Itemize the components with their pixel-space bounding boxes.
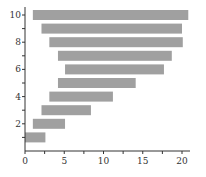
bar-3 [41,105,90,115]
bar-1 [25,132,45,142]
y-tick-label: 10 [10,10,22,20]
floating-bar-chart: 05101520246810 [0,0,206,177]
y-tick-label: 6 [15,64,21,74]
y-tick-label: 4 [15,92,21,102]
x-tick-label: 10 [98,156,110,166]
x-tick-label: 5 [61,156,67,166]
bar-5 [58,78,136,88]
y-tick-label: 2 [15,119,21,129]
bar-6 [65,64,164,74]
x-tick-label: 0 [22,156,28,166]
bar-7 [58,51,172,61]
bar-10 [33,10,188,20]
x-tick-label: 15 [137,156,149,166]
bar-2 [33,119,65,129]
y-tick-label: 8 [15,37,21,47]
bar-8 [49,37,182,47]
bar-4 [49,92,113,102]
x-tick-label: 20 [176,156,188,166]
bar-9 [41,24,182,34]
